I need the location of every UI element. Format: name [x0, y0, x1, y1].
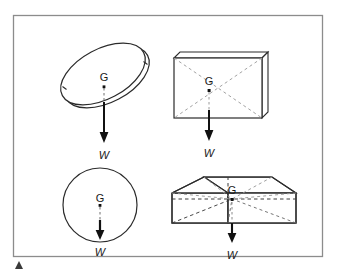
diagram-canvas: G W G W [0, 0, 337, 275]
box-label-g: G [228, 184, 237, 196]
sphere-label-g: G [96, 192, 105, 204]
sphere-centroid-dot [99, 204, 102, 207]
disc-centroid-dot [103, 85, 106, 88]
centre-of-gravity-diagram: G W G W [0, 0, 337, 275]
disc-label-w: W [99, 149, 111, 161]
plate-label-g: G [205, 75, 214, 87]
plate-side-face [262, 52, 268, 118]
box-label-w: W [227, 249, 239, 261]
box-centroid-dot [231, 198, 234, 201]
box-right-face [228, 193, 296, 223]
plate-top-face [174, 52, 268, 58]
box-front-face [172, 193, 228, 223]
plate-centroid-dot [208, 89, 211, 92]
plate-label-w: W [204, 147, 216, 159]
disc-label-g: G [100, 71, 109, 83]
sphere-label-w: W [95, 246, 107, 258]
